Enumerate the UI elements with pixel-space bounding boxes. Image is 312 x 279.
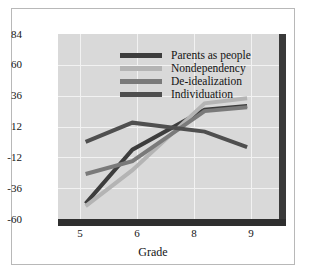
x-tick-label: 6 — [122, 228, 152, 239]
x-tick-label: 5 — [65, 228, 95, 239]
legend-label: Individuation — [171, 88, 233, 101]
legend-item: Nondependency — [120, 62, 290, 75]
legend-item: De-idealization — [120, 75, 290, 88]
legend-item: Individuation — [120, 88, 290, 101]
legend-item: Parents as people — [120, 49, 290, 62]
y-tick-label: 84 — [0, 29, 22, 40]
x-tick-label: 9 — [236, 228, 266, 239]
y-tick-label: -12 — [0, 152, 22, 163]
axis-bottom-bar — [58, 219, 286, 226]
series-line-individuation — [86, 123, 248, 147]
chart-figure: 84 60 36 12 -12 -36 -60 Parents as peopl… — [11, 8, 295, 265]
x-tick-label: 8 — [179, 228, 209, 239]
legend-swatch-parents-as-people — [120, 53, 162, 58]
axis-right-bar — [279, 34, 286, 226]
y-tick-label: 36 — [0, 90, 22, 101]
legend-label: De-idealization — [171, 75, 242, 88]
legend-label: Parents as people — [171, 49, 251, 62]
legend-label: Nondependency — [171, 62, 246, 75]
plot-area: Parents as people Nondependency De-ideal… — [58, 34, 279, 219]
series-line-nondependency — [86, 98, 248, 206]
y-tick-label: -36 — [0, 183, 22, 194]
y-tick-label: -60 — [0, 214, 22, 225]
legend-swatch-individuation — [120, 92, 162, 97]
y-tick-label: 12 — [0, 121, 22, 132]
legend-swatch-nondependency — [120, 66, 162, 71]
y-tick-label: 60 — [0, 59, 22, 70]
legend-swatch-de-idealization — [120, 79, 162, 84]
x-axis-label: Grade — [12, 245, 294, 260]
chart-legend: Parents as people Nondependency De-ideal… — [120, 49, 290, 101]
